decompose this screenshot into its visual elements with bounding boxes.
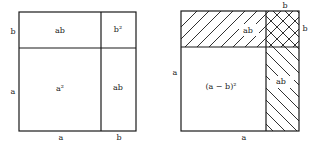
right-side-label-b: b [302, 24, 307, 33]
diagram-canvas: ab b² a² ab b a a b [0, 0, 311, 143]
right-region-right-strip-label: ab [276, 77, 286, 86]
left-bottom-label-b: b [116, 133, 121, 142]
left-region-top-right-label: b² [114, 25, 122, 34]
left-bottom-label-a: a [59, 133, 64, 142]
left-square-diagram: ab b² a² ab b a a b [10, 12, 136, 142]
top-strip-hatching [161, 11, 311, 47]
left-region-bottom-left-label: a² [56, 84, 64, 93]
left-side-label-a: a [11, 87, 16, 96]
right-strip-hatching [266, 0, 306, 143]
left-side-label-b: b [10, 27, 15, 36]
right-top-label-b: b [282, 1, 287, 10]
right-left-label-a: a [173, 68, 178, 77]
right-region-top-strip-label: ab [243, 26, 253, 35]
right-square-diagram: ab (a − b)² ab b b a a [161, 0, 311, 143]
right-region-bottom-left-label: (a − b)² [205, 82, 236, 91]
left-region-bottom-right-label: ab [113, 83, 123, 92]
right-bottom-label-a: a [242, 133, 247, 142]
left-region-top-left-label: ab [55, 26, 65, 35]
